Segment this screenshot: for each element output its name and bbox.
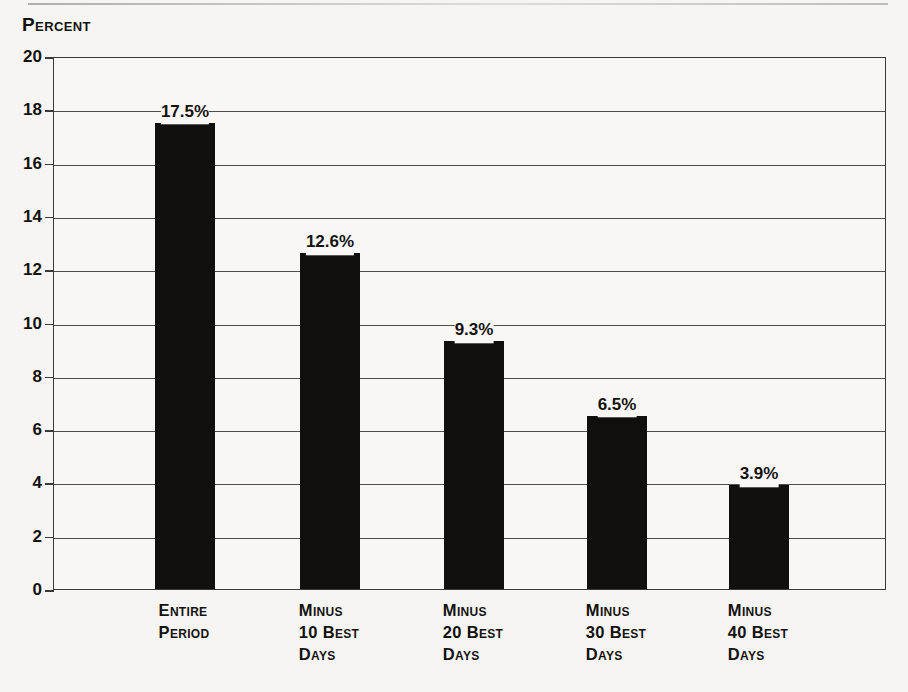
x-axis-category-label: Minus 10 Best Days	[299, 600, 359, 666]
y-axis-tick-label: 20	[2, 47, 42, 67]
x-axis-category-label: Entire Period	[159, 600, 210, 644]
chart-page: Percent 20181614121086420 17.5%12.6%9.3%…	[0, 0, 908, 692]
bar	[300, 253, 360, 589]
bar	[155, 123, 215, 589]
plot-area: 17.5%12.6%9.3%6.5%3.9%	[53, 57, 886, 590]
bar-value-label: 6.5%	[598, 396, 637, 418]
bar-value-label: 3.9%	[740, 465, 779, 487]
y-axis-tick-label: 8	[2, 367, 42, 387]
bar	[729, 485, 789, 589]
bar	[587, 416, 647, 589]
y-axis-tick-label: 18	[2, 100, 42, 120]
y-axis-tick-label: 2	[2, 527, 42, 547]
y-axis-tick-label: 4	[2, 473, 42, 493]
x-axis-category-label: Minus 30 Best Days	[586, 600, 646, 666]
bar	[444, 341, 504, 589]
bar-value-label: 12.6%	[306, 234, 354, 256]
x-axis-category-label: Minus 20 Best Days	[443, 600, 503, 666]
x-axis-category-label: Minus 40 Best Days	[728, 600, 788, 666]
y-axis-tick-label: 16	[2, 154, 42, 174]
bar-value-label: 17.5%	[161, 103, 209, 125]
y-axis-tick-label: 10	[2, 314, 42, 334]
bar-value-label: 9.3%	[455, 321, 494, 343]
y-axis-title: Percent	[22, 14, 91, 36]
y-axis-tick-label: 14	[2, 207, 42, 227]
scan-artifact-line	[28, 3, 888, 5]
y-axis-tick-mark	[45, 590, 54, 592]
y-axis-tick-label: 6	[2, 420, 42, 440]
y-axis-tick-label: 12	[2, 260, 42, 280]
y-axis-tick-label: 0	[2, 580, 42, 600]
